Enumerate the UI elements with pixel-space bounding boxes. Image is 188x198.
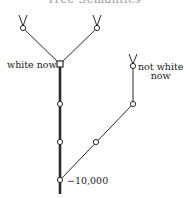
label-not-white-line2: now bbox=[138, 71, 183, 80]
label-not-white-now: not white now bbox=[138, 62, 183, 80]
branching-time-tree bbox=[0, 0, 188, 198]
node-alt-upper bbox=[130, 101, 135, 106]
node-now-square bbox=[57, 61, 63, 67]
label-time-marker: −10,000 bbox=[67, 176, 108, 185]
node-trunk-1 bbox=[57, 101, 62, 106]
node-leaf-right bbox=[94, 25, 99, 30]
node-trunk-2 bbox=[57, 139, 62, 144]
node-alt-leaf bbox=[130, 63, 135, 68]
fork-icon-left bbox=[19, 15, 27, 26]
node-alt-mid bbox=[93, 139, 98, 144]
label-white-now: white now bbox=[7, 60, 57, 69]
node-leaf-left bbox=[20, 25, 25, 30]
node-trunk-origin bbox=[57, 177, 62, 182]
branch-right bbox=[60, 28, 97, 64]
fork-icon-right bbox=[93, 15, 101, 26]
fork-icon-alt bbox=[129, 54, 137, 64]
